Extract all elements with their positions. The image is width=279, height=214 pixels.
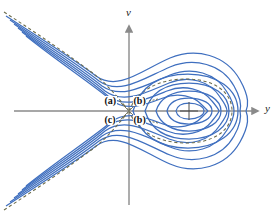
y-axis-label: y — [265, 103, 270, 114]
curve-label-b-upper: (b) — [133, 96, 146, 106]
orbit-lower-3 — [14, 111, 234, 198]
center-point-marker — [180, 102, 198, 120]
curve-label-a: (a) — [104, 96, 117, 106]
curve-label-c: (c) — [104, 115, 116, 125]
phase-plane-figure: v y (a) (b) (c) (b) — [0, 0, 279, 214]
curve-label-b-lower: (b) — [133, 115, 146, 125]
v-axis-label: v — [126, 7, 131, 18]
phase-plane-plot — [0, 0, 279, 214]
orbit-upper-3 — [14, 24, 234, 111]
